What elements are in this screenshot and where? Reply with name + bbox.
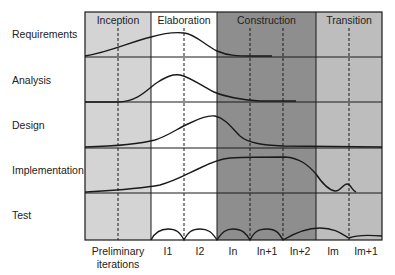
iteration-label-in: In [218,245,248,258]
phase-label-construction: Construction [217,14,316,26]
workflow-label-implementation: Implementation [12,164,84,176]
workflow-label-test: Test [12,209,31,221]
phase-construction-bg [217,12,316,240]
iteration-label-in-plus-1: In+1 [249,245,285,258]
iteration-label-i2: I2 [185,245,215,258]
iteration-label-im-plus-1: Im+1 [348,245,384,258]
phase-label-transition: Transition [316,14,382,26]
workflow-label-design: Design [12,119,45,131]
iteration-label-preliminary: Preliminary iterations [88,245,148,271]
iteration-label-preliminary-line2: iterations [88,258,148,271]
workflow-label-requirements: Requirements [12,28,77,40]
workflow-label-analysis: Analysis [12,74,51,86]
phase-label-elaboration: Elaboration [151,14,217,26]
iteration-label-i1: I1 [153,245,183,258]
iteration-label-im: Im [318,245,348,258]
phase-label-inception: Inception [85,14,151,26]
iteration-label-in-plus-2: In+2 [282,245,318,258]
process-diagram [0,0,395,275]
iteration-label-preliminary-line1: Preliminary [88,245,148,258]
